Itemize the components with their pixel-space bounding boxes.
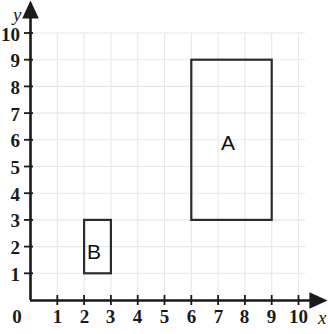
y-tick-label-3: 3 (0, 211, 20, 230)
x-axis-label: x (318, 308, 326, 327)
rectangle-b-label: B (82, 241, 106, 262)
x-tick-label-3: 3 (102, 307, 119, 326)
horizontal-gridlines (30, 33, 305, 300)
y-tick-label-5: 5 (0, 158, 20, 177)
origin-tick-label: 0 (9, 307, 25, 326)
x-tick-label-9: 9 (263, 307, 280, 326)
plot-canvas (0, 0, 328, 334)
coordinate-grid-figure: y x 0 1 2 3 4 5 6 7 8 9 10 1 2 3 4 5 6 7… (0, 0, 328, 334)
x-tick-label-7: 7 (210, 307, 227, 326)
y-tick-label-1: 1 (0, 265, 20, 284)
y-tick-label-2: 2 (0, 238, 20, 257)
x-tick-label-5: 5 (156, 307, 173, 326)
rectangle-a-label: A (216, 132, 240, 153)
x-tick-label-4: 4 (129, 307, 146, 326)
y-tick-label-10: 10 (0, 25, 20, 44)
y-tick-label-8: 8 (0, 78, 20, 97)
y-tick-label-9: 9 (0, 51, 20, 70)
y-tick-label-4: 4 (0, 185, 20, 204)
y-tick-label-7: 7 (0, 105, 20, 124)
x-tick-label-8: 8 (236, 307, 253, 326)
x-tick-label-2: 2 (76, 307, 93, 326)
x-tick-label-6: 6 (183, 307, 200, 326)
x-tick-label-10: 10 (285, 307, 312, 326)
y-axis-label: y (13, 5, 21, 24)
x-tick-label-1: 1 (49, 307, 66, 326)
y-tick-label-6: 6 (0, 131, 20, 150)
